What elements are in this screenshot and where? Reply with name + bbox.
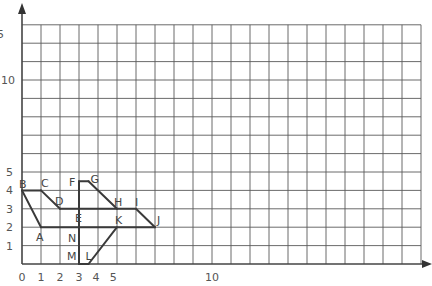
y-tick-label: 4 xyxy=(6,184,13,197)
x-axis-arrow-icon xyxy=(422,260,432,268)
y-axis-arrow-icon xyxy=(18,3,26,14)
x-tick-label: 2 xyxy=(57,271,64,284)
x-tick-label: 0 xyxy=(19,271,26,284)
point-label-D: D xyxy=(55,195,63,208)
point-label-F: F xyxy=(69,176,75,189)
y-tick-label: 2 xyxy=(6,221,13,234)
coordinate-grid-diagram: 01234510123451015 ABCDEFGHIJKLMN xyxy=(0,0,432,286)
point-label-I: I xyxy=(135,196,138,209)
y-tick-label: 3 xyxy=(6,203,13,216)
y-tick-label: 10 xyxy=(1,74,15,87)
point-labels: ABCDEFGHIJKLMN xyxy=(19,173,160,263)
point-label-A: A xyxy=(36,231,44,244)
y-tick-label: 15 xyxy=(0,28,4,41)
point-label-M: M xyxy=(67,250,77,263)
x-tick-label: 5 xyxy=(110,271,117,284)
point-label-E: E xyxy=(75,212,82,225)
segment-IJ xyxy=(136,209,155,227)
x-tick-label: 3 xyxy=(76,271,83,284)
x-tick-label: 1 xyxy=(38,271,45,284)
y-tick-label: 1 xyxy=(6,240,13,253)
point-label-C: C xyxy=(41,177,49,190)
point-label-N: N xyxy=(68,232,76,245)
point-label-G: G xyxy=(91,173,100,186)
point-label-B: B xyxy=(19,178,27,191)
point-label-H: H xyxy=(114,196,122,209)
x-tick-label: 10 xyxy=(205,271,219,284)
point-label-K: K xyxy=(115,214,123,227)
point-label-J: J xyxy=(156,214,160,227)
x-tick-label: 4 xyxy=(93,271,100,284)
y-tick-label: 5 xyxy=(6,166,13,179)
point-label-L: L xyxy=(86,250,93,263)
